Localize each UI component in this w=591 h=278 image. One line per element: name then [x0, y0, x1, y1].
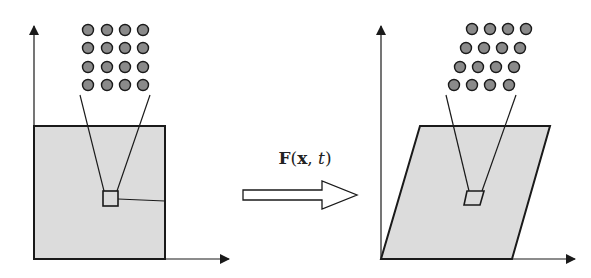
mapping-function-symbol: F	[278, 148, 290, 168]
reference-configuration	[34, 25, 229, 260]
particle-lattice-left	[83, 25, 149, 91]
mapping-arrow-icon	[243, 181, 357, 209]
reference-region	[34, 126, 165, 259]
deformed-region	[381, 126, 550, 259]
position-vector-symbol: x	[297, 148, 307, 168]
time-symbol: t	[318, 148, 325, 168]
deformation-diagram	[0, 0, 591, 278]
particle-lattice-right	[449, 24, 532, 91]
separator: ,	[307, 148, 318, 168]
mapping-label: F(x, t)	[255, 148, 355, 168]
paren-close: )	[325, 148, 332, 168]
deformed-configuration	[381, 24, 575, 260]
